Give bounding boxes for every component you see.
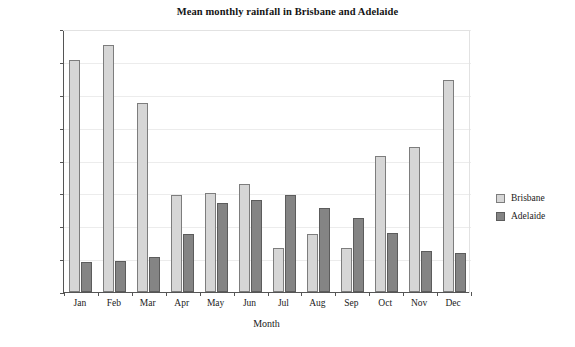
x-axis-tick-mark	[200, 292, 201, 296]
bar-brisbane-oct	[375, 156, 386, 292]
legend-swatch-icon	[496, 194, 505, 203]
bar-adelaide-nov	[421, 251, 432, 292]
legend-item-adelaide[interactable]: Adelaide	[496, 207, 545, 225]
bar-adelaide-feb	[115, 261, 126, 292]
bar-adelaide-oct	[387, 233, 398, 292]
bar-adelaide-jun	[251, 200, 262, 292]
x-axis-tick-mark	[471, 292, 472, 296]
y-axis-tick-mark	[60, 129, 64, 130]
y-axis-tick-mark	[60, 30, 64, 31]
x-axis-tick-mark	[403, 292, 404, 296]
bar-brisbane-apr	[171, 195, 182, 292]
y-axis-tick-mark	[60, 260, 64, 261]
gridline	[64, 129, 471, 130]
bar-brisbane-nov	[409, 147, 420, 292]
chart-figure: Mean monthly rainfall in Brisbane and Ad…	[0, 0, 575, 347]
bar-brisbane-jan	[69, 60, 80, 292]
y-axis-tick-mark	[60, 96, 64, 97]
y-axis-tick-mark	[60, 227, 64, 228]
bar-brisbane-may	[205, 193, 216, 292]
bar-adelaide-jul	[285, 195, 296, 292]
x-axis-tick-label: Dec	[428, 298, 478, 308]
bar-brisbane-sep	[341, 248, 352, 292]
bar-adelaide-mar	[149, 257, 160, 292]
gridline	[64, 96, 471, 97]
y-axis-tick-mark	[60, 194, 64, 195]
legend-item-brisbane[interactable]: Brisbane	[496, 189, 545, 207]
legend-label: Adelaide	[511, 211, 545, 221]
x-axis-tick-mark	[132, 292, 133, 296]
x-axis-tick-mark	[437, 292, 438, 296]
x-axis-tick-mark	[98, 292, 99, 296]
bar-brisbane-dec	[443, 80, 454, 292]
bar-adelaide-apr	[183, 234, 194, 292]
bar-brisbane-jul	[273, 248, 284, 292]
chart-title: Mean monthly rainfall in Brisbane and Ad…	[0, 6, 575, 17]
bar-adelaide-aug	[319, 208, 330, 292]
y-axis-tick-mark	[60, 162, 64, 163]
bar-brisbane-mar	[137, 103, 148, 292]
x-axis-tick-mark	[64, 292, 65, 296]
bar-brisbane-aug	[307, 234, 318, 292]
bar-adelaide-dec	[455, 253, 466, 292]
x-axis-tick-mark	[166, 292, 167, 296]
bar-brisbane-feb	[103, 45, 114, 292]
plot-area: 020406080100120140160	[63, 30, 470, 293]
x-axis-tick-mark	[369, 292, 370, 296]
chart-legend: BrisbaneAdelaide	[496, 189, 545, 225]
x-axis-label: Month	[63, 318, 470, 329]
bar-brisbane-jun	[239, 184, 250, 292]
y-axis-tick-mark	[60, 63, 64, 64]
x-axis-tick-mark	[234, 292, 235, 296]
gridline	[64, 63, 471, 64]
gridline	[64, 30, 471, 31]
bar-adelaide-sep	[353, 218, 364, 292]
x-axis-tick-mark	[335, 292, 336, 296]
x-axis-tick-mark	[268, 292, 269, 296]
bar-adelaide-may	[217, 203, 228, 292]
legend-swatch-icon	[496, 212, 505, 221]
bar-adelaide-jan	[81, 262, 92, 292]
legend-label: Brisbane	[511, 193, 545, 203]
x-axis-tick-mark	[301, 292, 302, 296]
